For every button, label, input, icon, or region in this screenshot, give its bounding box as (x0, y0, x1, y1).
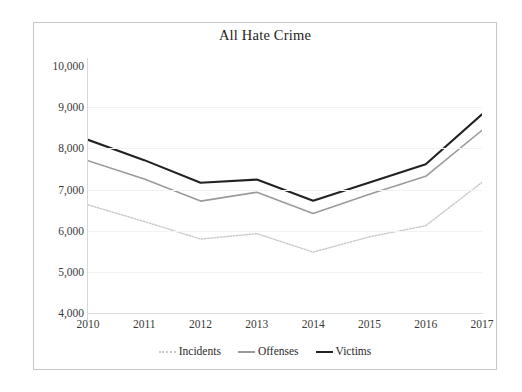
x-axis-tick-label: 2016 (401, 318, 451, 330)
y-axis-tick-label: 9,000 (30, 101, 84, 113)
x-axis-tick-label: 2017 (457, 318, 507, 330)
gridline (88, 231, 482, 232)
x-axis-tick-label: 2011 (119, 318, 169, 330)
legend-swatch-icon (238, 351, 255, 353)
plot-area (88, 66, 482, 313)
chart-legend: IncidentsOffensesVictims (33, 346, 497, 358)
y-axis-tick-label: 6,000 (30, 225, 84, 237)
series-line-victims (88, 114, 482, 200)
gridline (88, 190, 482, 191)
chart-title: All Hate Crime (33, 27, 497, 44)
legend-label: Victims (336, 346, 372, 358)
x-axis-tick-label: 2013 (232, 318, 282, 330)
x-axis-tick-labels: 20102011201220132014201520162017 (88, 318, 482, 336)
y-axis-tick-label: 5,000 (30, 266, 84, 278)
x-axis-tick-label: 2015 (344, 318, 394, 330)
series-line-offenses (88, 130, 482, 213)
series-line-incidents (88, 182, 482, 252)
y-axis-tick-labels: 4,0005,0006,0007,0008,0009,00010,000 (28, 66, 84, 313)
legend-label: Offenses (258, 346, 299, 358)
figure-container: All Hate Crime 4,0005,0006,0007,0008,000… (0, 0, 522, 392)
x-axis-tick-label: 2014 (288, 318, 338, 330)
y-axis-tick-label: 8,000 (30, 142, 84, 154)
legend-item-incidents[interactable]: Incidents (159, 346, 221, 358)
gridline (88, 272, 482, 273)
x-axis-tick-label: 2012 (176, 318, 226, 330)
gridline (88, 107, 482, 108)
x-axis-tick-label: 2010 (63, 318, 113, 330)
legend-swatch-icon (316, 351, 333, 353)
y-axis-tick-label: 7,000 (30, 184, 84, 196)
legend-label: Incidents (179, 346, 221, 358)
legend-item-offenses[interactable]: Offenses (238, 346, 299, 358)
legend-swatch-icon (159, 351, 176, 353)
gridline (88, 148, 482, 149)
x-axis-spine (87, 313, 483, 314)
y-axis-tick-label: 10,000 (30, 60, 84, 72)
legend-item-victims[interactable]: Victims (316, 346, 372, 358)
